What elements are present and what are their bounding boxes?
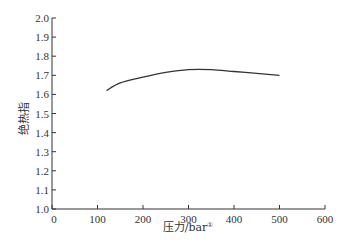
y-tick-label: 1.3 (35, 146, 49, 158)
x-tick-label: 600 (317, 213, 334, 225)
x-tick-label: 200 (135, 213, 152, 225)
chart: 1.01.11.21.31.41.51.61.71.81.92.0 010020… (0, 0, 351, 246)
data-line (107, 69, 280, 90)
y-tick-label: 1.6 (35, 88, 49, 100)
y-tick-label: 2.0 (35, 12, 49, 24)
x-tick-label: 0 (51, 213, 57, 225)
x-tick-label: 100 (89, 213, 106, 225)
y-tick-label: 1.5 (35, 108, 49, 120)
y-tick-label: 1.9 (35, 31, 49, 43)
x-tick-label: 400 (226, 213, 243, 225)
y-tick-label: 1.8 (35, 50, 49, 62)
x-tick-label: 500 (271, 213, 288, 225)
y-tick-label: 1.0 (35, 203, 49, 215)
y-axis-ticks: 1.01.11.21.31.41.51.61.71.81.92.0 (35, 12, 56, 215)
x-axis-label: 压力/bar① (163, 221, 214, 234)
y-tick-label: 1.1 (35, 184, 49, 196)
y-tick-label: 1.7 (35, 69, 49, 81)
axes (52, 18, 325, 209)
y-axis-label: 绝热指 (17, 102, 31, 135)
y-tick-label: 1.4 (35, 127, 49, 139)
y-tick-label: 1.2 (35, 165, 49, 177)
